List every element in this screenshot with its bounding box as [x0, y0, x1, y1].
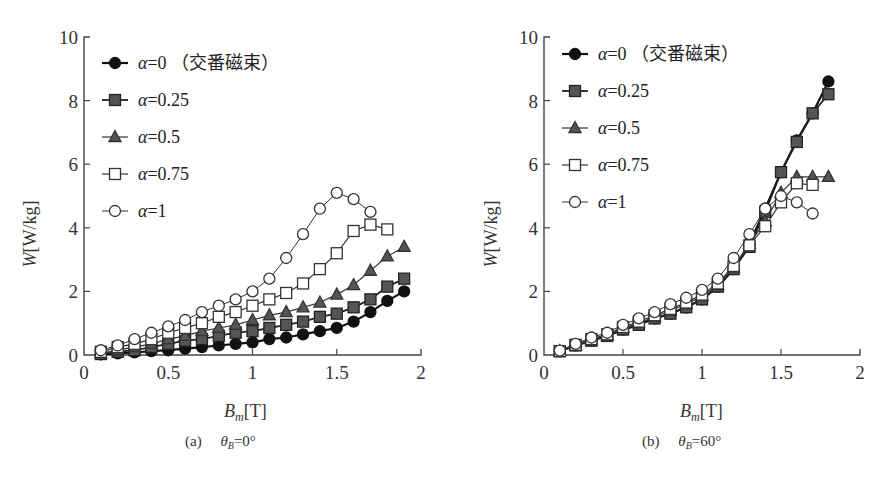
data-point-open-square — [791, 178, 802, 189]
data-point-filled-square — [807, 108, 818, 119]
legend-entry: α=0.75 — [562, 155, 649, 175]
data-point-open-square — [281, 287, 292, 298]
x-tick-label: 2 — [416, 362, 426, 383]
y-tick-label: 4 — [529, 218, 539, 239]
legend-marker-open-circle-icon — [570, 197, 581, 208]
legend-entry: α=1 — [102, 201, 167, 221]
data-point-filled-circle — [230, 338, 241, 349]
legend-label: α=1 — [138, 201, 167, 221]
data-point-filled-square — [281, 319, 292, 330]
data-point-open-circle — [602, 327, 613, 338]
data-point-filled-triangle — [822, 170, 834, 181]
x-tick-label: 1.5 — [325, 362, 349, 383]
data-point-open-square — [331, 248, 342, 259]
data-point-open-square — [382, 224, 393, 235]
y-tick-label: 8 — [69, 91, 79, 112]
data-point-filled-triangle — [314, 296, 326, 307]
series-filled-circle — [554, 76, 834, 357]
data-point-open-circle — [665, 299, 676, 310]
legend-entry: α=0 （交番磁束） — [562, 44, 739, 64]
data-point-open-circle — [760, 203, 771, 214]
data-point-open-circle — [633, 313, 644, 324]
data-point-filled-circle — [314, 326, 325, 337]
x-tick-label: 0 — [539, 362, 549, 383]
data-point-open-circle — [180, 315, 191, 326]
data-point-filled-square — [823, 89, 834, 100]
data-point-filled-circle — [382, 295, 393, 306]
legend-marker-filled-triangle-icon — [569, 122, 581, 133]
data-point-open-square — [247, 300, 258, 311]
x-tick-label: 1 — [248, 362, 258, 383]
legend-marker-filled-square-icon — [110, 95, 121, 106]
data-point-open-circle — [744, 229, 755, 240]
data-point-open-circle — [298, 229, 309, 240]
data-point-filled-square — [382, 281, 393, 292]
data-point-open-circle — [314, 203, 325, 214]
data-point-open-square — [230, 307, 241, 318]
data-point-open-circle — [570, 338, 581, 349]
legend-marker-filled-circle-icon — [110, 58, 121, 69]
data-point-filled-circle — [365, 307, 376, 318]
data-point-open-square — [314, 264, 325, 275]
x-tick-label: 2 — [855, 362, 865, 383]
data-point-open-circle — [112, 340, 123, 351]
data-point-filled-triangle — [331, 288, 343, 299]
legend-label: α=0 （交番磁束） — [598, 44, 739, 64]
series-filled-square — [554, 89, 834, 357]
x-axis-label: Bm[T] — [224, 401, 267, 424]
legend-marker-filled-square-icon — [570, 86, 581, 97]
legend-marker-open-circle-icon — [110, 206, 121, 217]
data-point-filled-square — [298, 316, 309, 327]
data-point-open-circle — [586, 332, 597, 343]
data-point-open-circle — [776, 191, 787, 202]
data-point-filled-square — [247, 326, 258, 337]
data-point-filled-square — [264, 322, 275, 333]
figure: 024681000.511.52Bm[T]W[W/kg](a) θB=0°α=0… — [0, 0, 881, 480]
y-tick-label: 10 — [519, 27, 538, 48]
series-line — [560, 196, 813, 351]
legend-label: α=0.75 — [598, 155, 649, 175]
data-point-open-circle — [247, 286, 258, 297]
data-point-open-circle — [129, 334, 140, 345]
legend-label: α=0.25 — [138, 90, 189, 110]
data-point-filled-circle — [399, 286, 410, 297]
data-point-open-circle — [697, 284, 708, 295]
y-tick-label: 8 — [529, 91, 539, 112]
data-point-open-circle — [728, 253, 739, 264]
chart-a: 024681000.511.52Bm[T]W[W/kg](a) θB=0°α=0… — [20, 27, 426, 451]
data-point-filled-circle — [823, 76, 834, 87]
legend-marker-open-square-icon — [570, 160, 581, 171]
data-point-open-circle — [264, 273, 275, 284]
legend-entry: α=0.25 — [562, 81, 649, 101]
legend-entry: α=0.5 — [102, 127, 180, 147]
data-point-filled-square — [776, 167, 787, 178]
data-point-filled-square — [348, 302, 359, 313]
data-point-open-square — [196, 318, 207, 329]
data-point-open-circle — [618, 319, 629, 330]
legend-entry: α=0.25 — [102, 90, 189, 110]
legend-entry: α=0 （交番磁束） — [102, 53, 279, 73]
chart-caption: (b) θB=60° — [642, 433, 721, 451]
chart-caption: (a) θB=0° — [185, 433, 256, 451]
data-point-open-circle — [213, 300, 224, 311]
data-point-filled-circle — [298, 329, 309, 340]
x-tick-label: 0 — [79, 362, 89, 383]
data-point-filled-square — [314, 311, 325, 322]
data-point-open-square — [744, 240, 755, 251]
y-tick-label: 6 — [529, 154, 539, 175]
data-point-open-circle — [681, 292, 692, 303]
legend-marker-filled-triangle-icon — [109, 131, 121, 142]
x-axis-label: Bm[T] — [680, 401, 723, 424]
data-point-filled-triangle — [381, 250, 393, 261]
x-tick-label: 1 — [697, 362, 707, 383]
data-point-open-square — [213, 311, 224, 322]
chart-b: 024681000.511.52Bm[T]W[W/kg](b) θB=60°α=… — [481, 27, 865, 451]
data-point-filled-circle — [247, 337, 258, 348]
data-point-open-circle — [554, 345, 565, 356]
legend-marker-filled-circle-icon — [570, 49, 581, 60]
legend-entry: α=0.75 — [102, 164, 189, 184]
legend-label: α=0.75 — [138, 164, 189, 184]
data-point-filled-circle — [348, 316, 359, 327]
data-point-open-square — [365, 219, 376, 230]
data-point-open-square — [264, 294, 275, 305]
